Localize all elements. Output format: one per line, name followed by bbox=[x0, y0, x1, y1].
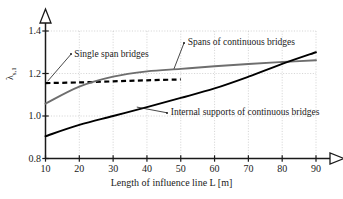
annotation-leader-line bbox=[137, 107, 167, 113]
annotation-leader-line bbox=[48, 54, 71, 81]
y-axis-title-subscript: s,1 bbox=[10, 67, 18, 75]
x-tick-label: 10 bbox=[32, 164, 60, 174]
x-tick-label: 40 bbox=[133, 164, 161, 174]
y-tick-label: 1.2 bbox=[14, 69, 41, 79]
x-tick-label: 70 bbox=[234, 164, 262, 174]
annotation-label: Spans of continuous bridges bbox=[188, 38, 295, 48]
x-axis-arrow-icon bbox=[330, 153, 343, 164]
x-tick-label: 80 bbox=[268, 164, 296, 174]
y-axis-arrow-icon bbox=[40, 9, 51, 23]
axis-lines bbox=[40, 9, 343, 164]
y-axis-title-symbol: λ bbox=[4, 75, 15, 80]
y-tick-label: 1.0 bbox=[14, 111, 41, 121]
x-tick-label: 20 bbox=[65, 164, 93, 174]
annotation-label: Internal supports of continuous bridges bbox=[171, 108, 320, 118]
x-tick-label: 30 bbox=[99, 164, 127, 174]
x-tick-label: 50 bbox=[167, 164, 195, 174]
annotation-marker-dot bbox=[183, 42, 185, 44]
y-tick-label: 0.8 bbox=[14, 154, 41, 164]
annotation-label: Single span bridges bbox=[74, 50, 148, 60]
x-tick-label: 90 bbox=[302, 164, 330, 174]
y-axis-title: λs,1 bbox=[4, 67, 18, 80]
x-axis-title: Length of influence line L [m] bbox=[0, 177, 343, 188]
chart-figure: 0.81.01.21.4 102030405060708090 Length o… bbox=[0, 0, 343, 199]
x-tick-label: 60 bbox=[201, 164, 229, 174]
annotation-leader-line bbox=[174, 43, 184, 69]
y-tick-label: 1.4 bbox=[14, 26, 41, 36]
